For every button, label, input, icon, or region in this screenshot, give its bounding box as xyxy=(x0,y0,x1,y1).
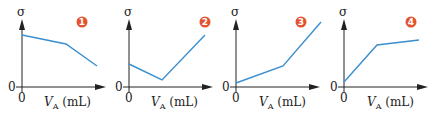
origin-y-label: 0 xyxy=(8,80,16,94)
y-axis-label: σ xyxy=(339,5,347,19)
y-axis-label: σ xyxy=(124,5,132,19)
x-axis-arrow-icon xyxy=(417,84,428,90)
conductivity-curve xyxy=(344,40,419,82)
origin-x-label: 0 xyxy=(340,91,348,105)
graph-panel-3: σ 0 0 VA (mL) 3 xyxy=(222,5,321,111)
x-axis-arrow-icon xyxy=(309,84,320,90)
origin-x-label: 0 xyxy=(18,91,26,105)
conductivity-curve xyxy=(129,35,205,80)
origin-y-label: 0 xyxy=(330,80,338,94)
conductivity-curve xyxy=(236,22,321,83)
origin-x-label: 0 xyxy=(125,91,133,105)
y-axis-label: σ xyxy=(17,5,25,19)
conductivity-graphs: σ 0 0 VA (mL) 1 σ 0 0 VA (mL) 2 σ 0 0 VA… xyxy=(0,0,433,116)
badge-number: 1 xyxy=(79,17,85,27)
conductivity-curve xyxy=(22,35,97,66)
x-axis-label: VA (mL) xyxy=(44,95,91,111)
graph-panel-4: σ 0 0 VA (mL) 4 xyxy=(330,5,428,111)
graph-panel-1: σ 0 0 VA (mL) 1 xyxy=(8,5,106,111)
badge-number: 2 xyxy=(202,17,208,27)
badge-number: 4 xyxy=(408,17,414,27)
y-axis-label: σ xyxy=(231,5,239,19)
x-axis-label: VA (mL) xyxy=(151,95,198,111)
y-axis-arrow-icon xyxy=(341,19,347,30)
origin-y-label: 0 xyxy=(222,80,230,94)
y-axis-arrow-icon xyxy=(126,19,132,30)
x-axis-arrow-icon xyxy=(202,84,213,90)
graph-panel-2: σ 0 0 VA (mL) 2 xyxy=(115,5,213,111)
x-axis-arrow-icon xyxy=(95,84,106,90)
badge-number: 3 xyxy=(298,17,304,27)
x-axis-label: VA (mL) xyxy=(259,95,306,111)
origin-y-label: 0 xyxy=(115,80,123,94)
y-axis-arrow-icon xyxy=(19,19,25,30)
y-axis-arrow-icon xyxy=(233,19,239,30)
x-axis-label: VA (mL) xyxy=(367,95,414,111)
origin-x-label: 0 xyxy=(232,91,240,105)
